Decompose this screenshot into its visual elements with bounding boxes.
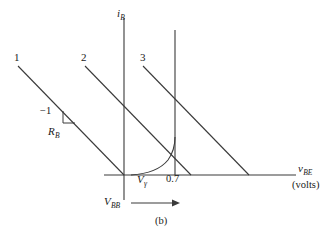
vgamma-subscript: γ	[144, 179, 147, 188]
on-voltage-label: 0.7	[166, 174, 179, 185]
rb-subscript: B	[55, 131, 60, 140]
vbb-subscript: BB	[111, 201, 120, 210]
vgamma-symbol: V	[137, 173, 144, 185]
cutin-voltage-label: Vγ	[137, 174, 147, 185]
voltage-unit-label: (volts)	[292, 180, 319, 191]
panel-label: (b)	[155, 216, 167, 227]
load-line-diagram-svg	[0, 0, 334, 246]
load-line-3	[143, 66, 249, 175]
figure-container: 1 2 3 iB −1 RB Vγ 0.7 vBE (volts) VBB (b…	[0, 0, 334, 246]
rb-symbol: R	[48, 125, 55, 137]
load-line-1-label: 1	[14, 52, 20, 63]
base-emitter-voltage-axis-label: vBE	[298, 163, 312, 174]
supply-voltage-label: VBB	[104, 196, 120, 207]
diode-characteristic-curve	[131, 137, 175, 175]
vbe-subscript: BE	[303, 168, 312, 177]
load-line-1	[18, 66, 124, 175]
load-line-3-label: 3	[140, 52, 146, 63]
vbb-arrow-head	[172, 200, 180, 207]
ib-subscript: B	[120, 13, 125, 22]
slope-denominator-label: RB	[48, 126, 59, 137]
load-line-2-label: 2	[81, 52, 87, 63]
vbb-symbol: V	[104, 195, 111, 207]
base-current-axis-label: iB	[117, 8, 125, 19]
slope-numerator-label: −1	[40, 106, 51, 117]
